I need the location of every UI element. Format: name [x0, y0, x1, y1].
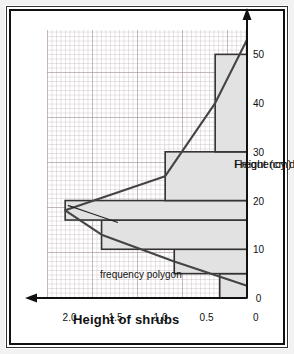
- y-tick-label: 2.0: [51, 312, 77, 323]
- y-tick-label: 1.5: [96, 312, 122, 323]
- x-tick-label: 20: [246, 195, 272, 206]
- histogram-bar: [174, 249, 247, 273]
- y-axis-label: Frequency density: [145, 158, 294, 170]
- y-tick-label: 1.0: [142, 312, 168, 323]
- x-tick-label: 0: [246, 293, 272, 304]
- histogram-bar: [102, 220, 247, 249]
- x-tick-label: 40: [246, 98, 272, 109]
- y-tick-label: 0: [233, 312, 259, 323]
- y-axis-arrow: [25, 294, 37, 303]
- x-axis-arrow: [243, 8, 252, 20]
- figure-frame: Height of shrubs 01020304050 00.51.01.52…: [6, 6, 288, 348]
- x-tick-label: 30: [246, 146, 272, 157]
- frequency-polygon-annotation: frequency polygon: [100, 269, 182, 280]
- y-tick-label: 0.5: [187, 312, 213, 323]
- x-tick-label: 50: [246, 49, 272, 60]
- histogram-bar: [65, 201, 247, 220]
- x-tick-label: 10: [246, 244, 272, 255]
- figure-page: Height of shrubs 01020304050 00.51.01.52…: [0, 0, 294, 354]
- histogram-bar: [215, 54, 247, 151]
- rotated-chart-stage: Height of shrubs 01020304050 00.51.01.52…: [13, 12, 281, 342]
- chart-container: Height of shrubs 01020304050 00.51.01.52…: [13, 12, 281, 342]
- histogram-bars: [65, 54, 247, 298]
